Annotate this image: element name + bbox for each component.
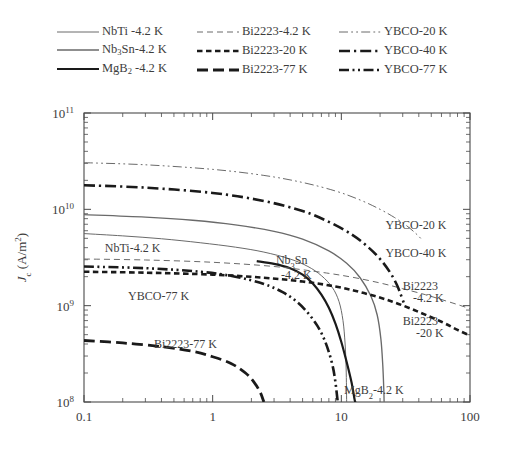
legend-label-nb3sn: Nb3Sn-4.2 K [102, 43, 167, 58]
legend-item-ybco_20: YBCO-20 K [338, 25, 476, 39]
annotation-nb3sn_l2: -4.2 K [281, 268, 312, 282]
legend-swatch-nb3sn [56, 43, 100, 57]
chart-plot-area: 0.111010010810910101011B(T)Jc (A/m2)NbTi… [0, 96, 512, 436]
legend-row: Nb3Sn-4.2 KBi2223-20 KYBCO-40 K [56, 41, 476, 60]
chart-legend: NbTi -4.2 KBi2223-4.2 KYBCO-20 KNb3Sn-4.… [56, 22, 476, 80]
annotation-bi2223_20b: -20 K [416, 326, 444, 340]
legend-swatch-ybco_20 [338, 25, 382, 39]
legend-swatch-ybco_77 [338, 63, 382, 77]
legend-item-nb3sn: Nb3Sn-4.2 K [56, 43, 196, 58]
legend-swatch-bi2223_77 [196, 63, 240, 77]
series-line-ybco-77-k [84, 267, 338, 403]
y-tick-label: 1011 [52, 105, 74, 121]
legend-item-bi2223_77: Bi2223-77 K [196, 63, 338, 77]
legend-swatch-mgb2 [56, 62, 100, 76]
legend-row: NbTi -4.2 KBi2223-4.2 KYBCO-20 K [56, 22, 476, 41]
y-tick-label: 1010 [52, 201, 75, 217]
legend-swatch-bi2223_20 [196, 44, 240, 58]
annotation-nbti: NbTi-4.2 K [105, 241, 161, 255]
legend-label-ybco_20: YBCO-20 K [384, 25, 448, 38]
x-tick-label: 10 [335, 409, 348, 424]
y-tick-label: 108 [57, 394, 75, 410]
legend-item-ybco_40: YBCO-40 K [338, 44, 476, 58]
legend-item-ybco_77: YBCO-77 K [338, 63, 476, 77]
legend-swatch-nbti [56, 25, 100, 39]
annotation-bi2223_42b: -4.2 K [413, 291, 444, 305]
legend-row: MgB2 -4.2 KBi2223-77 KYBCO-77 K [56, 60, 476, 79]
legend-label-bi2223_42: Bi2223-4.2 K [242, 25, 311, 38]
annotation-ybco_77: YBCO-77 K [128, 289, 189, 303]
y-axis-label: Jc (A/m2) [13, 233, 33, 282]
x-tick-label: 1 [209, 409, 216, 424]
legend-label-mgb2: MgB2 -4.2 K [102, 62, 167, 77]
legend-item-mgb2: MgB2 -4.2 K [56, 62, 196, 77]
annotation-bi2223_77: Bi2223-77 K [154, 337, 217, 351]
annotation-ybco_40: YBCO-40 K [385, 246, 446, 260]
y-tick-label: 109 [57, 298, 75, 314]
legend-item-bi2223_42: Bi2223-4.2 K [196, 25, 338, 39]
x-axis-label: B(T) [264, 434, 289, 436]
annotation-ybco_20: YBCO-20 K [385, 218, 446, 232]
x-tick-label: 0.1 [76, 409, 92, 424]
legend-label-ybco_40: YBCO-40 K [384, 44, 448, 57]
legend-label-bi2223_77: Bi2223-77 K [242, 63, 308, 76]
legend-item-nbti: NbTi -4.2 K [56, 25, 196, 39]
legend-label-ybco_77: YBCO-77 K [384, 63, 448, 76]
legend-swatch-ybco_40 [338, 44, 382, 58]
x-tick-label: 100 [460, 409, 480, 424]
legend-label-bi2223_20: Bi2223-20 K [242, 44, 308, 57]
jc-vs-b-chart: 0.111010010810910101011B(T)Jc (A/m2)NbTi… [0, 96, 512, 436]
legend-swatch-bi2223_42 [196, 25, 240, 39]
annotation-mgb2: MgB2-4.2 K [344, 383, 404, 401]
series-line-mgb2-4-2-k [257, 261, 356, 402]
legend-label-nbti: NbTi -4.2 K [102, 25, 163, 38]
legend-item-bi2223_20: Bi2223-20 K [196, 44, 338, 58]
